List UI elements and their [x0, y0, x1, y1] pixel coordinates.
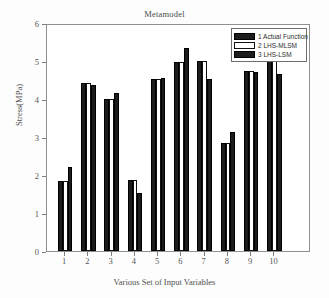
x-tick-label: 2: [85, 256, 89, 266]
bar-series-3-group-9: [254, 72, 259, 251]
x-tick-label: 10: [269, 256, 278, 266]
legend-swatch-icon: [234, 33, 255, 40]
bar-series-3-group-1: [68, 167, 73, 251]
y-tick-label: 3: [35, 133, 39, 143]
bar-series-3-group-8: [230, 132, 235, 251]
y-tick-label: 0: [35, 247, 39, 257]
y-tick-label: 1: [35, 209, 39, 219]
y-axis-label: Stress(MPa): [14, 45, 24, 165]
legend-item: 1 Actual Function: [234, 32, 304, 40]
y-tick-label: 5: [35, 57, 39, 67]
x-tick-label: 1: [62, 256, 66, 266]
bar-series-3-group-10: [277, 74, 282, 251]
legend-item: 3 LHS-LSM: [234, 50, 304, 58]
x-tick-label: 8: [225, 256, 229, 266]
x-tick-label: 5: [155, 256, 159, 266]
legend-swatch-icon: [234, 42, 255, 49]
x-axis: 12345678910: [46, 252, 310, 272]
legend-item: 2 LHS-MLSM: [234, 41, 304, 49]
legend: 1 Actual Function 2 LHS-MLSM 3 LHS-LSM: [231, 28, 307, 62]
bar-series-3-group-2: [91, 85, 96, 251]
x-tick-label: 7: [202, 256, 206, 266]
y-tick-label: 2: [35, 171, 39, 181]
metamodel-bar-chart: Metamodel 0123456 Stress(MPa) 1234567891…: [0, 0, 329, 298]
legend-label: 1 Actual Function: [258, 33, 308, 40]
legend-label: 2 LHS-MLSM: [258, 42, 297, 49]
bar-series-3-group-4: [137, 193, 142, 251]
legend-label: 3 LHS-LSM: [258, 51, 292, 58]
legend-swatch-icon: [234, 51, 255, 58]
x-tick-label: 9: [248, 256, 252, 266]
x-tick-label: 4: [132, 256, 136, 266]
y-tick-label: 6: [35, 19, 39, 29]
y-tick-label: 4: [35, 95, 39, 105]
bar-series-3-group-5: [161, 78, 166, 251]
x-tick-label: 6: [178, 256, 182, 266]
bar-series-3-group-6: [184, 48, 189, 251]
bar-series-3-group-7: [207, 79, 212, 251]
x-tick-label: 3: [109, 256, 113, 266]
bar-series-3-group-3: [114, 93, 119, 251]
x-axis-label: Various Set of Input Variables: [0, 277, 329, 287]
chart-title: Metamodel: [0, 9, 329, 19]
